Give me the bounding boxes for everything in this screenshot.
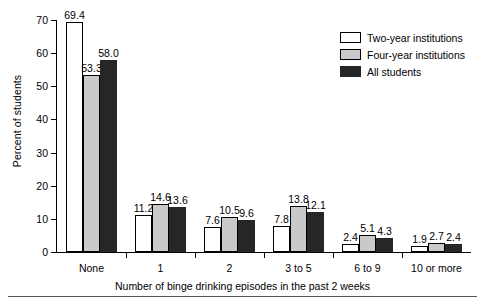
bar-value-label: 9.6	[233, 208, 261, 219]
bar[interactable]	[376, 238, 393, 252]
y-tick-label: 30	[22, 148, 48, 158]
bar[interactable]	[411, 246, 428, 252]
x-tick-mark	[126, 253, 127, 258]
x-category-label: 3 to 5	[259, 262, 339, 274]
y-tick-mark	[51, 252, 56, 253]
bar-value-label: 12.1	[302, 200, 330, 211]
bar[interactable]	[169, 207, 186, 252]
bar-value-label: 13.6	[164, 195, 192, 206]
bar-chart: Percent of students 010203040506070 69.4…	[0, 0, 485, 308]
x-tick-mark	[195, 253, 196, 258]
legend-swatch	[340, 49, 361, 60]
bar-group: 69.453.358.0	[66, 20, 117, 252]
chart-legend: Two-year institutionsFour-year instituti…	[340, 30, 465, 81]
bar[interactable]	[290, 206, 307, 252]
x-category-label: 6 to 9	[328, 262, 408, 274]
x-category-label: 10 or more	[397, 262, 477, 274]
footer-divider	[8, 296, 477, 297]
bar-group: 7.813.812.1	[273, 20, 324, 252]
bar[interactable]	[273, 226, 290, 252]
legend-item[interactable]: Two-year institutions	[340, 30, 465, 45]
y-tick-mark	[51, 186, 56, 187]
bar[interactable]	[307, 212, 324, 252]
y-tick-label: 10	[22, 214, 48, 224]
y-tick-label: 50	[22, 81, 48, 91]
bar[interactable]	[221, 217, 238, 252]
x-category-label: 1	[121, 262, 201, 274]
legend-label: All students	[367, 66, 421, 78]
legend-item[interactable]: All students	[340, 64, 465, 79]
bar[interactable]	[359, 235, 376, 252]
bar[interactable]	[204, 227, 221, 252]
legend-swatch	[340, 32, 361, 43]
bar-value-label: 2.4	[440, 232, 468, 243]
y-tick-label: 0	[22, 247, 48, 257]
y-tick-mark	[51, 219, 56, 220]
y-tick-mark	[51, 153, 56, 154]
bar-group: 11.214.613.6	[135, 20, 186, 252]
x-tick-mark	[264, 253, 265, 258]
bar-value-label: 69.4	[61, 10, 89, 21]
legend-label: Four-year institutions	[367, 49, 465, 61]
bar[interactable]	[342, 244, 359, 252]
legend-label: Two-year institutions	[367, 32, 463, 44]
bar-value-label: 4.3	[371, 226, 399, 237]
bar-group: 7.610.59.6	[204, 20, 255, 252]
y-tick-mark	[51, 53, 56, 54]
y-tick-mark	[51, 20, 56, 21]
bar[interactable]	[135, 215, 152, 252]
legend-swatch	[340, 66, 361, 77]
bar[interactable]	[428, 243, 445, 252]
y-tick-mark	[51, 119, 56, 120]
bar[interactable]	[238, 220, 255, 252]
x-axis-title: Number of binge drinking episodes in the…	[0, 280, 485, 292]
y-tick-label: 70	[22, 15, 48, 25]
y-tick-label: 40	[22, 114, 48, 124]
bar[interactable]	[152, 204, 169, 252]
x-tick-mark	[402, 253, 403, 258]
x-category-label: 2	[190, 262, 270, 274]
y-tick-label: 60	[22, 48, 48, 58]
y-tick-mark	[51, 86, 56, 87]
x-category-label: None	[52, 262, 132, 274]
bar[interactable]	[66, 22, 83, 252]
legend-item[interactable]: Four-year institutions	[340, 47, 465, 62]
y-tick-label: 20	[22, 181, 48, 191]
bar[interactable]	[100, 60, 117, 252]
bar[interactable]	[445, 244, 462, 252]
x-tick-mark	[333, 253, 334, 258]
bar-value-label: 58.0	[95, 48, 123, 59]
bar[interactable]	[83, 75, 100, 252]
